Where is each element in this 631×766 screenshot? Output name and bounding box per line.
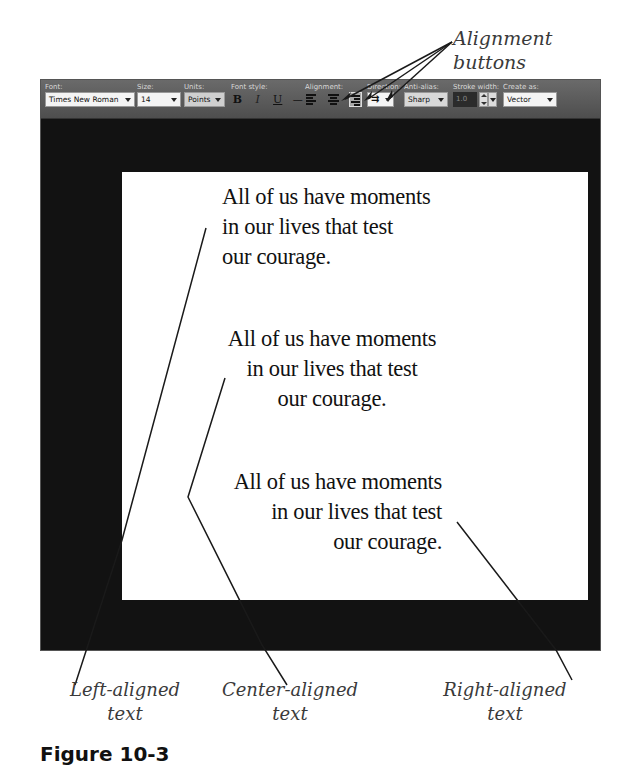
size-group: Size: 14	[137, 82, 181, 107]
units-select[interactable]: Points	[184, 92, 225, 107]
chevron-down-icon	[171, 98, 177, 102]
text-line: our courage.	[222, 384, 442, 414]
font-label: Font:	[45, 82, 135, 92]
direction-select[interactable]: ⇉	[367, 92, 394, 107]
text-line: our courage.	[222, 527, 442, 557]
chevron-down-icon	[547, 98, 553, 102]
strikethrough-button[interactable]: —	[291, 92, 304, 107]
callout-line: text	[430, 702, 580, 726]
text-line: in our lives that test	[222, 354, 442, 384]
canvas-area: All of us have moments in our lives that…	[41, 119, 600, 651]
text-line: in our lives that test	[222, 212, 442, 242]
text-options-toolbar: Font: Times New Roman Size: 14 Units: Po…	[41, 80, 600, 119]
direction-label: Direction:	[367, 82, 401, 92]
text-tool-screenshot: Font: Times New Roman Size: 14 Units: Po…	[40, 79, 601, 651]
callout-line: Right-aligned	[430, 678, 580, 702]
alignment-buttons-callout: Alignment buttons	[453, 26, 631, 74]
units-value: Points	[188, 95, 211, 104]
font-style-label: Font style:	[231, 82, 306, 92]
font-style-group: Font style: B I U —	[231, 82, 306, 111]
left-aligned-text-block[interactable]: All of us have moments in our lives that…	[222, 182, 442, 272]
callout-line: text	[215, 702, 365, 726]
anti-alias-select[interactable]: Sharp	[404, 92, 448, 107]
chevron-down-icon	[438, 98, 444, 102]
anti-alias-value: Sharp	[408, 95, 430, 104]
underline-button[interactable]: U	[271, 92, 284, 107]
size-value: 14	[141, 95, 151, 104]
create-as-select[interactable]: Vector	[503, 92, 557, 107]
font-value: Times New Roman	[49, 95, 119, 104]
stroke-width-group: Stroke width: 1.0	[453, 82, 499, 111]
center-aligned-callout: Center-aligned text	[215, 678, 365, 726]
stroke-width-dropdown[interactable]	[488, 92, 497, 107]
alignment-label: Alignment:	[305, 82, 366, 92]
stroke-width-label: Stroke width:	[453, 82, 499, 92]
stroke-width-input[interactable]: 1.0	[453, 92, 477, 107]
alignment-group: Alignment:	[305, 82, 366, 111]
chevron-down-icon	[125, 98, 131, 102]
font-select[interactable]: Times New Roman	[45, 92, 135, 107]
text-line: All of us have moments	[222, 467, 442, 497]
align-left-button[interactable]	[305, 92, 318, 107]
italic-button[interactable]: I	[251, 92, 264, 107]
create-as-label: Create as:	[503, 82, 557, 92]
callout-line: text	[55, 702, 195, 726]
stroke-width-stepper[interactable]	[479, 92, 488, 107]
text-line: All of us have moments	[222, 324, 442, 354]
figure-caption: Figure 10-3	[40, 742, 170, 766]
text-line: in our lives that test	[222, 497, 442, 527]
callout-line: Center-aligned	[215, 678, 365, 702]
document-canvas[interactable]: All of us have moments in our lives that…	[122, 172, 588, 600]
anti-alias-group: Anti-alias: Sharp	[404, 82, 448, 107]
direction-group: Direction: ⇉	[367, 82, 401, 107]
text-line: All of us have moments	[222, 182, 442, 212]
left-aligned-callout: Left-aligned text	[55, 678, 195, 726]
chevron-down-icon	[385, 98, 391, 102]
anti-alias-label: Anti-alias:	[404, 82, 448, 92]
text-line: our courage.	[222, 242, 442, 272]
create-as-group: Create as: Vector	[503, 82, 557, 107]
right-aligned-callout: Right-aligned text	[430, 678, 580, 726]
chevron-down-icon	[215, 98, 221, 102]
center-aligned-text-block[interactable]: All of us have moments in our lives that…	[222, 324, 442, 414]
units-label: Units:	[184, 82, 225, 92]
bold-button[interactable]: B	[231, 92, 244, 107]
align-right-button[interactable]	[349, 92, 362, 107]
text-direction-icon: ⇉	[371, 93, 379, 104]
font-group: Font: Times New Roman	[45, 82, 135, 107]
units-group: Units: Points	[184, 82, 225, 107]
callout-line: Left-aligned	[55, 678, 195, 702]
size-select[interactable]: 14	[137, 92, 181, 107]
align-center-button[interactable]	[327, 92, 340, 107]
size-label: Size:	[137, 82, 181, 92]
create-as-value: Vector	[507, 95, 531, 104]
right-aligned-text-block[interactable]: All of us have moments in our lives that…	[222, 467, 442, 557]
